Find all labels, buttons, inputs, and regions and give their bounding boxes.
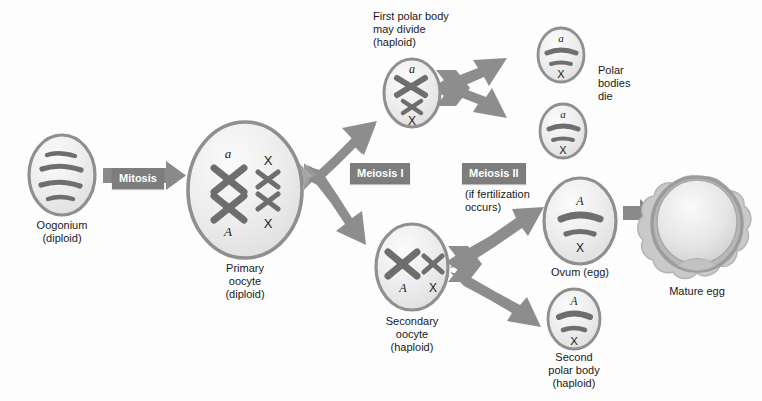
caption-mature-egg: Mature egg <box>645 285 749 298</box>
chromosome-label-oocyte-a: a <box>225 146 232 161</box>
note-polar-bodies-die: Polar bodies die <box>598 64 658 103</box>
chromosome-label-spb-X: X <box>570 335 578 347</box>
chromosome-label-pb2-a: a <box>560 108 566 120</box>
chromosome-label-soc-X: X <box>429 281 437 295</box>
tag-meiosis-1: Meiosis I <box>350 163 410 184</box>
cell-polar-body-upper: a X <box>538 28 584 82</box>
chromosome-label-ovum-A: A <box>575 194 584 208</box>
caption-second-polar-body: Second polar body (haploid) <box>522 351 626 390</box>
chromosome-label-soc-A: A <box>398 281 407 295</box>
caption-primary-oocyte: Primary oocyte (diploid) <box>193 262 297 301</box>
cell-primary-oocyte: a A X X <box>188 122 302 258</box>
caption-secondary-oocyte: Secondary oocyte (haploid) <box>360 315 464 354</box>
oogenesis-diagram: a A X X a X <box>0 0 762 401</box>
chromosome-label-pb1-X: X <box>557 68 565 80</box>
arrow-polar-body-fork <box>432 58 507 118</box>
chromosome-label-fpb-a: a <box>409 62 415 76</box>
tag-mitosis: Mitosis <box>112 168 164 189</box>
cell-polar-body-lower: a X <box>540 104 586 158</box>
note-fertilization: (if fertilization occurs) <box>465 188 560 214</box>
chromosome-label-oocyte-X-bottom: X <box>264 216 273 231</box>
cell-oogonium <box>29 135 95 215</box>
chromosome-label-fpb-X: X <box>408 114 416 128</box>
chromosome-label-pb1-a: a <box>558 32 564 44</box>
cell-mature-egg <box>638 176 751 279</box>
caption-oogonium: Oogonium (diploid) <box>10 219 114 245</box>
chromosome-label-oocyte-X-top: X <box>264 153 273 168</box>
chromosome-label-spb-A: A <box>569 295 578 307</box>
cell-second-polar-body: A X <box>548 289 600 349</box>
note-first-polar-body: First polar body may divide (haploid) <box>373 10 503 49</box>
chromosome-label-ovum-X: X <box>576 241 584 255</box>
chromosome-label-pb2-X: X <box>559 144 567 156</box>
caption-ovum: Ovum (egg) <box>528 266 632 279</box>
cell-first-polar-body: a X <box>384 59 440 128</box>
cell-secondary-oocyte: A X <box>376 224 448 310</box>
chromosome-label-oocyte-A: A <box>223 224 232 239</box>
tag-meiosis-2: Meiosis II <box>462 163 526 184</box>
